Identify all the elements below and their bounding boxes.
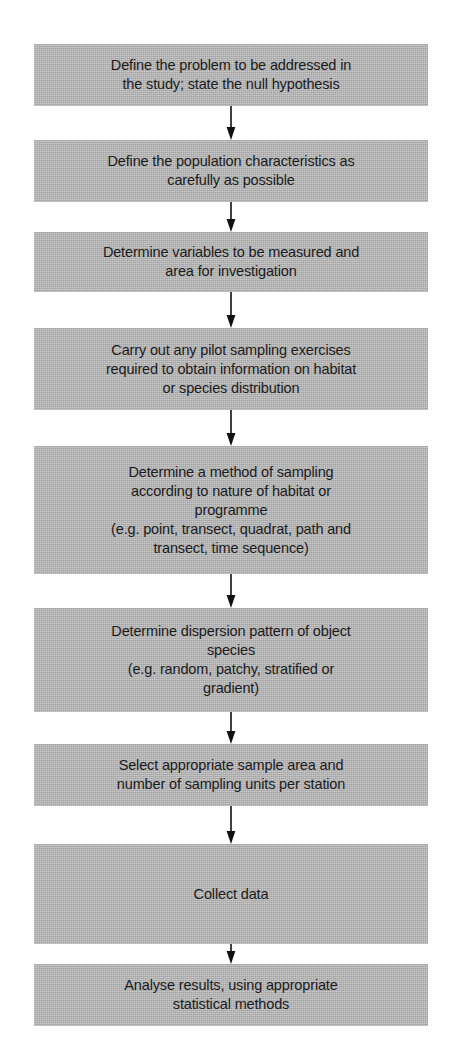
flow-node-label: Define the problem to be addressed in th… [111,56,351,94]
flow-arrow-down-icon [224,806,238,844]
flow-arrow-down-icon [224,410,238,446]
flow-arrow-down-icon [224,712,238,744]
flow-node-dispersion-pattern: Determine dispersion pattern of object s… [34,608,428,712]
flow-node-define-population: Define the population characteristics as… [34,140,428,202]
flow-arrow-down-icon [224,574,238,608]
flow-node-label: Collect data [194,885,269,904]
flow-node-label: Select appropriate sample area and numbe… [117,756,345,794]
flow-node-label: Define the population characteristics as… [107,152,354,190]
flow-arrow-down-icon [224,106,238,140]
flow-node-pilot-sampling: Carry out any pilot sampling exercises r… [34,328,428,410]
flow-arrow-down-icon [224,944,238,964]
flowchart-diagram: Define the problem to be addressed in th… [0,0,460,1060]
flow-node-sample-area: Select appropriate sample area and numbe… [34,744,428,806]
flow-node-label: Analyse results, using appropriate stati… [124,976,337,1014]
flow-node-define-problem: Define the problem to be addressed in th… [34,44,428,106]
flow-node-label: Carry out any pilot sampling exercises r… [106,341,356,398]
flow-arrow-down-icon [224,292,238,328]
flow-node-sampling-method: Determine a method of sampling according… [34,446,428,574]
flow-arrow-down-icon [224,202,238,232]
flow-node-collect-data: Collect data [34,844,428,944]
flow-node-label: Determine variables to be measured and a… [103,243,359,281]
flow-node-analyse-results: Analyse results, using appropriate stati… [34,964,428,1026]
flow-node-determine-variables: Determine variables to be measured and a… [34,232,428,292]
flow-node-label: Determine a method of sampling according… [111,463,351,558]
flow-node-label: Determine dispersion pattern of object s… [111,622,350,698]
